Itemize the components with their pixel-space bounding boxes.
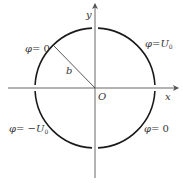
potential-label-upper-left: φ= 0 [25,44,50,54]
origin-label: O [98,92,106,102]
value: 0 [163,123,169,134]
x-axis-label: x [165,92,171,102]
phi-symbol: φ [144,123,151,134]
subscript: 0 [169,43,173,50]
circle-arc-upper-right [98,28,155,85]
phi-symbol: φ [145,38,152,49]
potential-label-upper-right: φ=U0 [145,39,173,50]
equals: = [151,123,163,134]
potential-label-lower-left: φ= −U0 [9,124,48,135]
equals: = − [16,123,36,134]
value: U [160,38,168,49]
circle-arc-lower-right [98,91,155,148]
value: 0 [44,43,50,54]
diagram-canvas [0,0,183,183]
circle-arc-lower-left [35,91,92,148]
equals: = [32,43,44,54]
y-axis-label: y [86,10,92,20]
radius-label: b [66,66,72,76]
phi-symbol: φ [9,123,16,134]
potential-label-lower-right: φ= 0 [144,124,169,134]
phi-symbol: φ [25,43,32,54]
subscript: 0 [44,128,48,135]
radius-line [54,46,95,88]
